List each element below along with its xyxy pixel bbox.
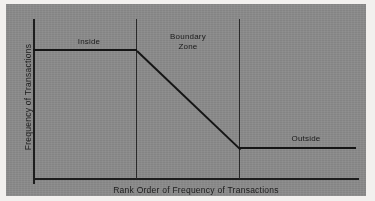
inside-zone-label: Inside <box>44 37 134 47</box>
y-axis-title: Frequency of Transactions <box>23 17 33 177</box>
x-axis-title: Rank Order of Frequency of Transactions <box>33 185 359 195</box>
boundary-outside-divider <box>239 19 240 179</box>
plot-area: Inside Boundary Zone Outside Rank Order … <box>6 4 366 196</box>
y-axis-line <box>33 19 35 184</box>
boundary-zone-slope-line <box>136 50 241 150</box>
inside-plateau-line <box>33 49 137 51</box>
inside-boundary-divider <box>136 19 137 179</box>
outside-zone-label: Outside <box>261 134 351 144</box>
boundary-zone-label: Boundary Zone <box>139 32 237 52</box>
chart-panel: Inside Boundary Zone Outside Rank Order … <box>6 4 366 196</box>
outside-plateau-line <box>239 147 356 149</box>
x-axis-line <box>33 178 359 180</box>
chart-page: Inside Boundary Zone Outside Rank Order … <box>0 0 375 201</box>
